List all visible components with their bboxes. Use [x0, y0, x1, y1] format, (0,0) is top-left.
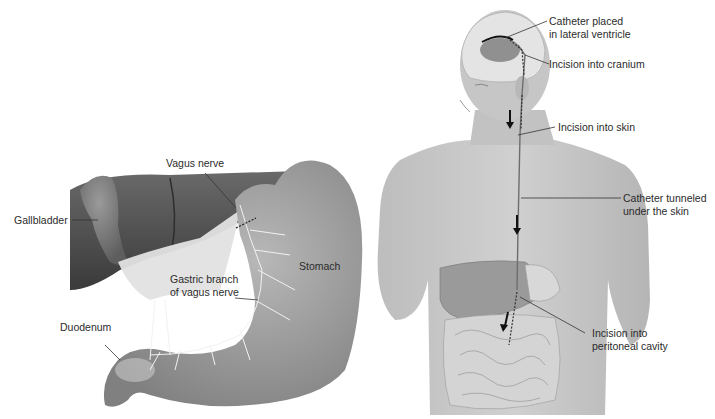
label-gallbladder: Gallbladder — [14, 214, 68, 227]
label-catheter-tunneled-line2: under the skin — [623, 205, 689, 218]
label-incision-peritoneal-line1: Incision into — [592, 327, 647, 340]
label-gastric-branch-line1: Gastric branch — [170, 273, 238, 286]
label-gastric-branch-line2: of vagus nerve — [170, 286, 239, 299]
label-catheter-placed-line2: in lateral ventricle — [549, 28, 631, 41]
label-vagus-nerve: Vagus nerve — [166, 157, 224, 170]
label-incision-cranium: Incision into cranium — [549, 58, 645, 71]
label-incision-skin: Incision into skin — [558, 121, 635, 134]
label-catheter-placed-line1: Catheter placed — [549, 15, 623, 28]
label-incision-peritoneal-line2: peritoneal cavity — [592, 340, 668, 353]
label-catheter-tunneled-line1: Catheter tunneled — [623, 192, 706, 205]
label-duodenum: Duodenum — [60, 321, 111, 334]
label-stomach: Stomach — [299, 260, 340, 273]
